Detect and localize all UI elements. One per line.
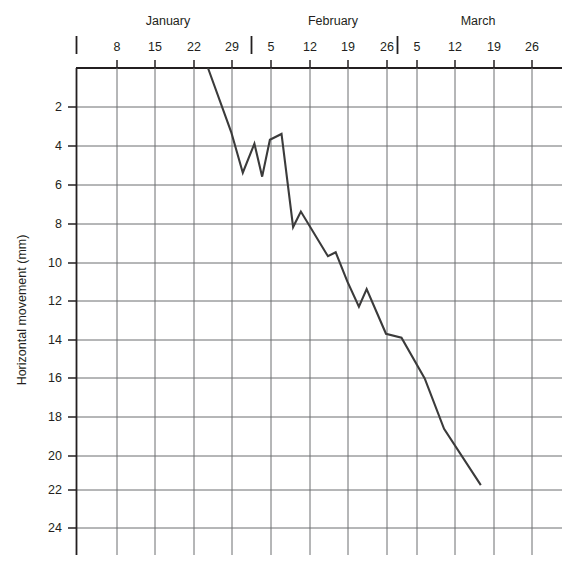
x-tick-label-11: 19 [487, 40, 501, 54]
y-tick-marks-group [68, 107, 76, 528]
month-label-january: January [146, 14, 191, 28]
x-tick-label-4: 29 [225, 40, 239, 54]
y-tick-label-8: 8 [55, 217, 62, 231]
horizontal-gridlines-group [76, 107, 562, 528]
x-tick-marks-group [117, 60, 532, 68]
y-tick-label-2: 2 [55, 100, 62, 114]
month-label-february: February [308, 14, 359, 28]
x-tick-label-1: 8 [114, 40, 121, 54]
chart-container: January February March 8 15 22 29 5 12 1… [0, 0, 577, 577]
y-tick-labels-group: 2 4 6 8 10 12 14 16 18 20 22 24 [48, 100, 62, 535]
y-tick-label-20: 20 [48, 449, 62, 463]
x-tick-label-6: 12 [303, 40, 317, 54]
data-series-line [208, 68, 481, 485]
vertical-gridlines-group [117, 68, 532, 555]
x-tick-label-2: 15 [148, 40, 162, 54]
x-tick-label-3: 22 [187, 40, 201, 54]
x-tick-label-10: 12 [448, 40, 462, 54]
y-tick-label-6: 6 [55, 178, 62, 192]
y-tick-label-10: 10 [48, 256, 62, 270]
y-tick-label-12: 12 [48, 294, 62, 308]
y-axis-title: Horizontal movement (mm) [15, 235, 29, 386]
y-tick-label-24: 24 [48, 521, 62, 535]
x-tick-label-5: 5 [268, 40, 275, 54]
month-label-march: March [461, 14, 496, 28]
y-tick-label-4: 4 [55, 139, 62, 153]
x-tick-label-7: 19 [341, 40, 355, 54]
x-tick-label-9: 5 [414, 40, 421, 54]
y-tick-label-18: 18 [48, 410, 62, 424]
y-tick-label-16: 16 [48, 371, 62, 385]
x-tick-label-12: 26 [525, 40, 539, 54]
month-labels-group: January February March [146, 14, 496, 28]
x-tick-labels-group: 8 15 22 29 5 12 19 26 5 12 19 26 [114, 40, 539, 54]
y-tick-label-14: 14 [48, 333, 62, 347]
horizontal-movement-line-chart: January February March 8 15 22 29 5 12 1… [0, 0, 577, 577]
y-tick-label-22: 22 [48, 483, 62, 497]
x-tick-label-8: 26 [380, 40, 394, 54]
